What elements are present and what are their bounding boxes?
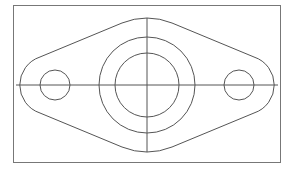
flange-drawing <box>0 0 293 170</box>
